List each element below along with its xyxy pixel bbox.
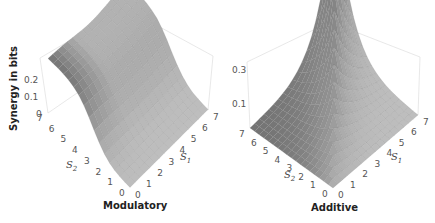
figure: 0.2 0.1 0 Synergy in bits 76543210 01234… xyxy=(0,0,435,223)
s2-tick: 7 xyxy=(37,113,43,123)
s2-tick: 4 xyxy=(275,155,281,165)
s2-axis-label: S2 xyxy=(66,159,78,173)
s2-tick: 5 xyxy=(263,146,269,156)
s2-tick: 1 xyxy=(310,180,316,190)
s1-tick: 0 xyxy=(338,190,344,200)
s2-tick: 2 xyxy=(96,167,102,177)
s2-tick: 7 xyxy=(239,129,245,139)
s2-tick: 5 xyxy=(60,134,66,144)
s2-tick: 6 xyxy=(251,138,257,148)
s1-tick: 1 xyxy=(146,179,152,189)
right-title: Additive xyxy=(311,202,358,213)
s1-tick: 3 xyxy=(168,157,174,167)
z-axis-label: Synergy in bits xyxy=(8,46,19,131)
s1-tick: 5 xyxy=(191,134,197,144)
s1-tick: 2 xyxy=(362,169,368,179)
z-tick: 0.3 xyxy=(232,65,246,75)
s1-tick: 7 xyxy=(423,117,429,127)
z-tick: 0.2 xyxy=(24,75,38,85)
z-tick: 0.1 xyxy=(232,99,246,109)
s2-tick: 3 xyxy=(84,156,90,166)
s2-tick: 2 xyxy=(298,172,304,182)
s2-tick: 6 xyxy=(49,124,55,134)
s1-tick: 7 xyxy=(213,112,219,122)
z-tick: 0.1 xyxy=(24,92,38,102)
s1-tick: 6 xyxy=(411,127,417,137)
s2-axis-label: S2 xyxy=(284,169,296,183)
s1-axis-label: S1 xyxy=(391,151,402,165)
left-title: Modulatory xyxy=(103,200,168,211)
additive-surface-plot: 0.3 0.1 76543210 01234567 S2 S1 Additive xyxy=(232,0,429,213)
s1-tick: 0 xyxy=(135,190,141,200)
s1-tick: 1 xyxy=(350,180,356,190)
s1-tick: 6 xyxy=(202,123,208,133)
s1-tick: 3 xyxy=(374,159,380,169)
s1-tick: 5 xyxy=(399,138,405,148)
s2-tick: 1 xyxy=(107,177,113,187)
s2-tick: 4 xyxy=(72,145,78,155)
s2-tick: 0 xyxy=(322,189,328,199)
modulatory-surface-plot: 0.2 0.1 0 Synergy in bits 76543210 01234… xyxy=(8,0,219,211)
s2-tick: 0 xyxy=(119,188,125,198)
s1-axis-label: S1 xyxy=(180,151,191,165)
s1-tick: 2 xyxy=(157,168,163,178)
